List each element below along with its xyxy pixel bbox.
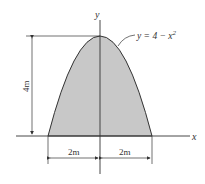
left-width-label: 2m: [68, 147, 80, 157]
y-axis-label: y: [94, 9, 100, 20]
height-dimension-label: 4m: [21, 80, 31, 92]
x-axis-label: x: [191, 131, 197, 142]
parabola-area-diagram: y x y = 4 − x2 4m 2m 2m: [0, 0, 205, 184]
right-width-label: 2m: [119, 147, 131, 157]
curve-leader-line: [118, 35, 135, 46]
curve-equation-label: y = 4 − x2: [136, 29, 177, 41]
